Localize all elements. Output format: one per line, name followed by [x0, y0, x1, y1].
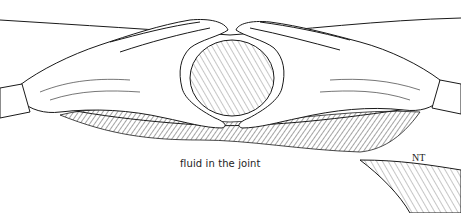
- artist-signature: NT: [412, 152, 425, 163]
- kneecap: [190, 40, 274, 116]
- caption: fluid in the joint: [180, 158, 261, 169]
- knee-palpation-illustration: [0, 0, 461, 213]
